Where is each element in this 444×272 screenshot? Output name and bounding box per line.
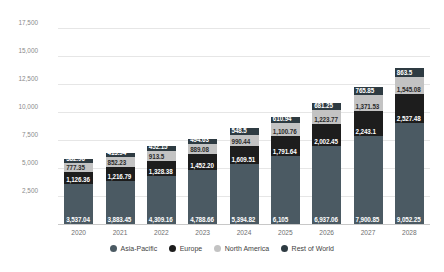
bar-segment[interactable]: 863.5 [395, 68, 424, 78]
bar-value-label: 1,791.64 [273, 148, 297, 155]
y-axis-tick-label: 10,000 [0, 103, 38, 110]
bar-value-label: 2,002.45 [314, 138, 338, 145]
bar-segment[interactable]: 1,126.36 [64, 172, 93, 185]
bar-value-label: 6,937.06 [314, 216, 338, 223]
bar-value-label: 1,452.20 [190, 162, 214, 169]
gridline [58, 84, 430, 85]
bar-segment[interactable]: 1,216.79 [106, 167, 135, 181]
x-axis-tick-label: 2021 [100, 229, 140, 236]
bar-segment[interactable]: 9,052.25 [395, 123, 424, 224]
bar-value-label: 1,223.77 [314, 116, 338, 123]
bar-stack[interactable]: 9,052.252,527.481,545.08863.5 [395, 68, 424, 224]
bar-segment[interactable]: 2,002.45 [312, 124, 341, 146]
bar-value-label: 7,900.85 [356, 216, 380, 223]
bar-segment[interactable]: 2,527.48 [395, 94, 424, 122]
bar-stack[interactable]: 5,394.821,609.51990.44548.5 [230, 128, 259, 224]
bar-stack[interactable]: 3,883.451,216.79852.23413.94 [106, 153, 135, 224]
bar-value-label: 452.15 [149, 143, 168, 150]
legend-swatch-icon [110, 245, 117, 252]
bar-value-label: 5,394.82 [232, 216, 256, 223]
x-axis-tick-label: 2024 [224, 229, 264, 236]
gridline [58, 28, 430, 29]
bar-segment[interactable]: 889.08 [188, 144, 217, 154]
y-axis-tick-label: 5,000 [0, 159, 38, 166]
bar-value-label: 1,216.79 [108, 173, 132, 180]
x-axis-tick-label: 2028 [389, 229, 429, 236]
bar-stack[interactable]: 6,1051,791.641,100.76610.94 [271, 117, 300, 224]
bar-segment[interactable]: 610.94 [271, 117, 300, 124]
x-axis-line [58, 224, 430, 225]
bar-value-label: 681.25 [314, 102, 333, 109]
legend-label: Asia-Pacific [121, 245, 158, 252]
bar-segment[interactable]: 1,545.08 [395, 77, 424, 94]
bar-value-label: 990.44 [232, 138, 251, 145]
bar-segment[interactable]: 852.23 [106, 157, 135, 167]
bar-segment[interactable]: 1,609.51 [230, 146, 259, 164]
bar-segment[interactable]: 452.15 [147, 146, 176, 151]
legend-item[interactable]: North America [214, 245, 269, 252]
bar-segment[interactable]: 7,900.85 [354, 136, 383, 224]
bar-segment[interactable]: 1,328.38 [147, 161, 176, 176]
bar-segment[interactable]: 1,452.20 [188, 154, 217, 170]
legend-label: Rest of World [292, 245, 334, 252]
bar-stack[interactable]: 4,788.661,452.20889.08494.63 [188, 139, 217, 224]
bar-segment[interactable]: 3,883.45 [106, 181, 135, 224]
legend-swatch-icon [169, 245, 176, 252]
bar-value-label: 863.5 [397, 69, 412, 76]
bar-value-label: 2,527.48 [397, 115, 421, 122]
bar-segment[interactable]: 1,223.77 [312, 110, 341, 124]
bar-segment[interactable]: 1,100.76 [271, 123, 300, 135]
y-axis-tick-label: 7,500 [0, 131, 38, 138]
bar-value-label: 765.85 [356, 87, 375, 94]
bar-value-label: 3,883.45 [108, 216, 132, 223]
bar-stack[interactable]: 6,937.062,002.451,223.77681.25 [312, 103, 341, 224]
bar-value-label: 3,537.04 [66, 216, 90, 223]
bar-segment[interactable]: 990.44 [230, 135, 259, 146]
bar-segment[interactable]: 413.94 [106, 153, 135, 158]
bar-value-label: 6,105 [273, 216, 288, 223]
legend-item[interactable]: Europe [169, 245, 202, 252]
x-axis-tick-label: 2023 [183, 229, 223, 236]
bar-value-label: 1,609.51 [232, 156, 256, 163]
bar-segment[interactable]: 913.5 [147, 151, 176, 161]
bar-segment[interactable]: 681.25 [312, 103, 341, 111]
legend-label: North America [225, 245, 269, 252]
bar-segment[interactable]: 2,243.1 [354, 111, 383, 136]
bar-value-label: 494.63 [190, 136, 209, 143]
legend-swatch-icon [281, 245, 288, 252]
y-axis-tick-label: 15,000 [0, 47, 38, 54]
legend-item[interactable]: Asia-Pacific [110, 245, 157, 252]
bar-stack[interactable]: 7,900.852,243.11,371.53765.85 [354, 87, 383, 224]
legend-swatch-icon [214, 245, 221, 252]
bar-segment[interactable]: 6,937.06 [312, 146, 341, 224]
bar-value-label: 1,328.38 [149, 168, 173, 175]
y-axis-tick-label: 12,500 [0, 75, 38, 82]
bar-segment[interactable]: 777.35 [64, 163, 93, 172]
gridline [58, 56, 430, 57]
bar-value-label: 2,243.1 [356, 128, 376, 135]
bar-segment[interactable]: 5,394.82 [230, 164, 259, 224]
bar-segment[interactable]: 548.5 [230, 128, 259, 134]
x-axis-tick-label: 2022 [141, 229, 181, 236]
bar-value-label: 9,052.25 [397, 216, 421, 223]
bar-segment[interactable]: 494.63 [188, 139, 217, 145]
bar-segment[interactable]: 382.96 [64, 159, 93, 163]
bar-segment[interactable]: 1,371.53 [354, 95, 383, 110]
bar-segment[interactable]: 6,105 [271, 156, 300, 224]
bar-value-label: 1,100.76 [273, 128, 297, 135]
bar-segment[interactable]: 3,537.04 [64, 184, 93, 224]
bar-segment[interactable]: 4,309.16 [147, 176, 176, 224]
bar-stack[interactable]: 3,537.041,126.36777.35382.96 [64, 159, 93, 224]
bar-value-label: 1,545.08 [397, 86, 421, 93]
bar-segment[interactable]: 4,788.66 [188, 170, 217, 224]
bar-segment[interactable]: 1,791.64 [271, 136, 300, 156]
bar-stack[interactable]: 4,309.161,328.38913.5452.15 [147, 146, 176, 224]
y-axis-tick-label: 2,500 [0, 187, 38, 194]
stacked-bar-chart: Market size in million U.S. dollars 2,50… [0, 0, 444, 272]
bar-value-label: 413.94 [108, 149, 127, 156]
bar-value-label: 852.23 [108, 159, 127, 166]
x-axis-tick-label: 2025 [265, 229, 305, 236]
legend-item[interactable]: Rest of World [281, 245, 334, 252]
bar-segment[interactable]: 765.85 [354, 87, 383, 96]
bar-value-label: 777.35 [66, 164, 85, 171]
